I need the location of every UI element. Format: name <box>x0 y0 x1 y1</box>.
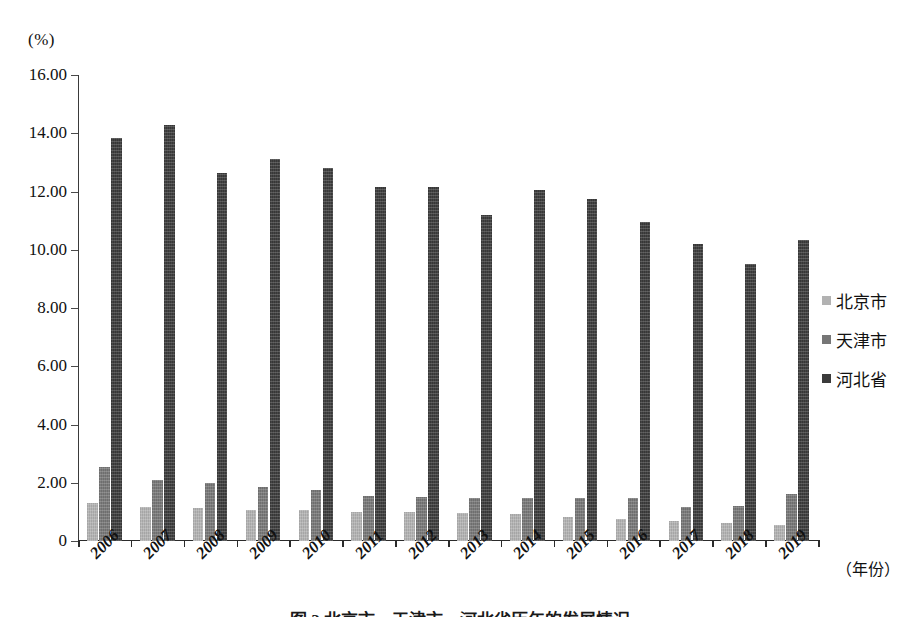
x-axis-tick <box>237 540 239 547</box>
legend-item: 北京市 <box>822 288 887 313</box>
x-axis-tick <box>131 540 133 547</box>
bar-group <box>140 75 175 541</box>
x-axis-tick <box>448 540 450 547</box>
bar <box>351 512 362 541</box>
bar <box>640 222 651 541</box>
bar-group <box>246 75 281 541</box>
y-axis-tick-label: 4.00 <box>37 415 67 435</box>
x-axis-tick <box>501 540 503 547</box>
bar <box>87 503 98 541</box>
legend-item: 天津市 <box>822 327 887 352</box>
bar-group <box>510 75 545 541</box>
bar <box>693 244 704 541</box>
legend-swatch-icon <box>822 335 831 344</box>
x-axis-tick <box>818 540 820 547</box>
legend-item: 河北省 <box>822 366 887 391</box>
bar <box>457 513 468 541</box>
bar <box>246 510 257 541</box>
y-axis-tick-label: 0 <box>59 531 68 551</box>
y-axis-unit-label: (%) <box>28 30 55 50</box>
bar-group <box>404 75 439 541</box>
bar <box>111 138 122 541</box>
y-axis-tick <box>71 366 78 367</box>
x-axis-tick <box>78 540 80 547</box>
bar <box>428 187 439 541</box>
y-axis-tick-label: 14.00 <box>29 123 67 143</box>
x-axis-tick <box>289 540 291 547</box>
y-axis-tick <box>71 541 78 542</box>
y-axis-tick <box>71 308 78 309</box>
bar <box>798 240 809 541</box>
bar <box>323 168 334 541</box>
bar <box>193 508 204 541</box>
bar-group <box>616 75 651 541</box>
bar <box>299 510 310 541</box>
y-axis-tick <box>71 192 78 193</box>
legend-swatch-icon <box>822 296 831 305</box>
bar <box>534 190 545 541</box>
plot-area: 02.004.006.008.0010.0012.0014.0016.00 <box>78 75 818 541</box>
x-axis-tick <box>554 540 556 547</box>
y-axis-tick-label: 12.00 <box>29 182 67 202</box>
chart-figure: (%) 02.004.006.008.0010.0012.0014.0016.0… <box>0 0 920 617</box>
x-axis-tick <box>395 540 397 547</box>
x-axis-tick <box>712 540 714 547</box>
bar <box>140 507 151 541</box>
bar <box>375 187 386 541</box>
bar-group <box>87 75 122 541</box>
bar-group <box>457 75 492 541</box>
y-axis-tick-label: 6.00 <box>37 356 67 376</box>
bar-group <box>669 75 704 541</box>
figure-caption: 图 2 北京市、天津市、河北省历年的发展情况 <box>0 606 920 617</box>
chart-legend: 北京市天津市河北省 <box>822 288 887 391</box>
legend-swatch-icon <box>822 374 831 383</box>
y-axis-tick <box>71 425 78 426</box>
legend-label: 天津市 <box>836 327 887 352</box>
y-axis-tick <box>71 483 78 484</box>
bar <box>404 512 415 541</box>
bar <box>587 199 598 542</box>
bar <box>270 159 281 541</box>
y-axis-line <box>78 75 79 541</box>
bar <box>510 514 521 541</box>
bar-group <box>774 75 809 541</box>
bar-group <box>351 75 386 541</box>
bar-group <box>193 75 228 541</box>
y-axis-tick <box>71 250 78 251</box>
bar-group <box>563 75 598 541</box>
x-axis-tick <box>659 540 661 547</box>
y-axis-tick-label: 10.00 <box>29 240 67 260</box>
x-axis-tick <box>607 540 609 547</box>
x-axis-tick <box>765 540 767 547</box>
bar <box>481 215 492 541</box>
x-axis-title: （年份） <box>836 556 900 580</box>
y-axis-tick <box>71 75 78 76</box>
bar <box>217 173 228 541</box>
bar <box>745 264 756 541</box>
y-axis-tick <box>71 133 78 134</box>
y-axis-tick-label: 8.00 <box>37 298 67 318</box>
y-axis-tick-label: 16.00 <box>29 65 67 85</box>
bar <box>164 125 175 541</box>
legend-label: 河北省 <box>836 366 887 391</box>
y-axis-tick-label: 2.00 <box>37 473 67 493</box>
legend-label: 北京市 <box>836 288 887 313</box>
x-axis-tick <box>184 540 186 547</box>
bar-group <box>299 75 334 541</box>
x-axis-tick <box>342 540 344 547</box>
bar-group <box>721 75 756 541</box>
